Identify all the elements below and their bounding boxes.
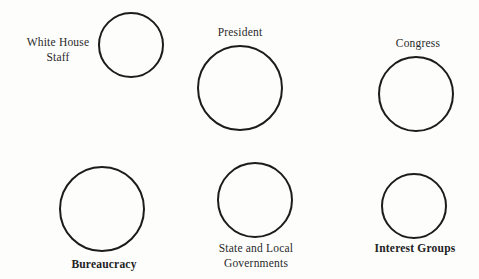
label-line: White House bbox=[27, 35, 90, 50]
white-house-staff-node bbox=[98, 12, 164, 78]
bureaucracy-node bbox=[59, 166, 145, 252]
interest-groups-label: Interest Groups bbox=[375, 241, 456, 256]
white-house-staff-label: White House Staff bbox=[27, 35, 90, 64]
congress-node bbox=[378, 56, 454, 132]
state-and-local-governments-node bbox=[217, 162, 293, 238]
label-line: Interest Groups bbox=[375, 241, 456, 256]
label-line: President bbox=[218, 25, 263, 40]
label-line: Governments bbox=[219, 256, 294, 271]
interest-groups-node bbox=[381, 173, 447, 239]
president-label: President bbox=[218, 25, 263, 40]
diagram-canvas: White House Staff President Congress Bur… bbox=[0, 0, 479, 279]
label-line: Congress bbox=[396, 36, 440, 51]
president-node bbox=[197, 45, 283, 131]
label-line: Staff bbox=[27, 50, 90, 65]
bureaucracy-label: Bureaucracy bbox=[71, 257, 136, 272]
label-line: Bureaucracy bbox=[71, 257, 136, 272]
label-line: State and Local bbox=[219, 241, 294, 256]
state-and-local-governments-label: State and Local Governments bbox=[219, 241, 294, 270]
congress-label: Congress bbox=[396, 36, 440, 51]
